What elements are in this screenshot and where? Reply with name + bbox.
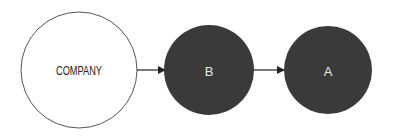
node-b: B xyxy=(164,25,254,115)
a-label: A xyxy=(324,64,333,79)
node-a: A xyxy=(284,26,372,114)
flow-diagram: COMPANY B A xyxy=(0,0,393,139)
node-company: COMPANY xyxy=(21,12,137,128)
b-label: B xyxy=(205,64,214,79)
company-label: COMPANY xyxy=(56,63,102,78)
